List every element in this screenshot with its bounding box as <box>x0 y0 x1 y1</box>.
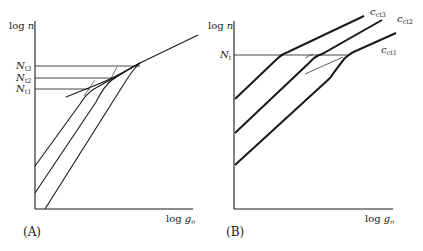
panel-b-y-axis-label: log n <box>208 20 233 31</box>
figure: log n Nt3 Nt2 Nt1 log go (A) <box>0 0 423 251</box>
panel-a-x-axis-label: log go <box>166 213 195 226</box>
panel-a-label: (A) <box>23 225 41 239</box>
panel-a-tangent-2 <box>108 67 117 84</box>
panel-b-curve-ct2 <box>235 20 382 133</box>
panel-a-y-axis-label: log n <box>9 20 34 31</box>
panel-b-curve-label-ct3: cct3 <box>370 6 386 19</box>
panel-b-x-axis-label: log go <box>365 213 394 226</box>
panel-a-tangent-1 <box>84 80 95 96</box>
panel-b-curve-label-ct2: cct2 <box>397 13 413 26</box>
panel-b: log n Nt cct3 cct2 cct1 log go (B) <box>208 6 413 239</box>
panel-b-level-label-nt: Nt <box>219 49 232 62</box>
panel-b-label: (B) <box>226 225 244 239</box>
panel-b-curve-ct1 <box>235 33 396 165</box>
panel-b-curve-label-ct1: cct1 <box>381 44 397 57</box>
panel-a: log n Nt3 Nt2 Nt1 log go (A) <box>9 20 198 239</box>
panel-b-tangent-line <box>305 57 343 74</box>
panel-a-curve-3 <box>45 63 140 209</box>
